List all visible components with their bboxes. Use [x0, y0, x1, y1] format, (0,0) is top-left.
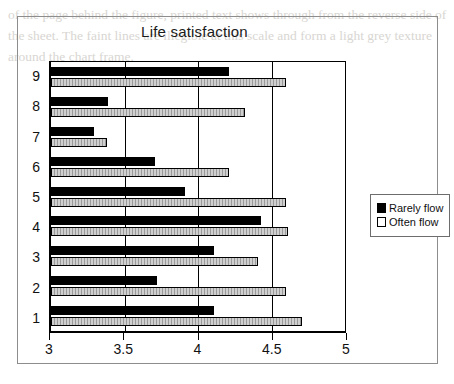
x-tick-mark-4.5 [272, 333, 273, 340]
x-tick-label-3: 3 [45, 341, 53, 357]
y-tick-label-6: 6 [18, 152, 45, 182]
category-group-4 [51, 211, 345, 241]
y-tick-label-5: 5 [18, 182, 45, 212]
category-group-7 [51, 122, 345, 152]
legend-item-often-flow: Often flow [377, 216, 443, 228]
category-group-9 [51, 62, 345, 92]
x-tick-mark-4 [198, 333, 199, 340]
legend-item-rarely-flow: Rarely flow [377, 202, 443, 214]
bar-often-flow-3 [51, 257, 258, 266]
x-axis-tick-marks [49, 333, 346, 341]
y-tick-label-8: 8 [18, 91, 45, 121]
x-tick-label-3.5: 3.5 [114, 341, 133, 357]
bar-rarely-flow-6 [51, 157, 155, 166]
bar-often-flow-8 [51, 108, 245, 117]
category-group-3 [51, 241, 345, 271]
y-tick-label-3: 3 [18, 242, 45, 272]
legend-label: Rarely flow [389, 202, 443, 214]
x-tick-mark-5 [346, 333, 347, 340]
bar-often-flow-5 [51, 198, 286, 207]
bar-rarely-flow-5 [51, 187, 185, 196]
chart-frame: Life satisfaction 987654321 33.544.55 Ra… [17, 16, 438, 364]
x-axis-tick-labels: 33.544.55 [49, 341, 346, 361]
bar-rarely-flow-2 [51, 276, 157, 285]
x-tick-mark-3.5 [123, 333, 124, 340]
bar-often-flow-7 [51, 138, 107, 147]
chart-title: Life satisfaction [0, 23, 404, 40]
chart-legend: Rarely flowOften flow [370, 194, 450, 237]
bar-often-flow-2 [51, 287, 286, 296]
category-group-6 [51, 152, 345, 182]
y-tick-label-1: 1 [18, 303, 45, 333]
bar-often-flow-1 [51, 317, 302, 326]
bar-rarely-flow-9 [51, 67, 229, 76]
x-tick-mark-3 [49, 333, 50, 340]
y-axis-tick-labels: 987654321 [18, 61, 45, 333]
bar-often-flow-9 [51, 78, 286, 87]
y-tick-label-2: 2 [18, 273, 45, 303]
bar-rarely-flow-7 [51, 127, 94, 136]
plot-area [49, 61, 346, 333]
y-tick-label-4: 4 [18, 212, 45, 242]
category-group-1 [51, 301, 345, 331]
bar-rarely-flow-4 [51, 216, 261, 225]
bar-rarely-flow-8 [51, 97, 108, 106]
category-group-8 [51, 92, 345, 122]
bar-rarely-flow-1 [51, 306, 214, 315]
legend-swatch-often-flow-icon [377, 217, 386, 227]
category-group-5 [51, 182, 345, 212]
y-tick-label-9: 9 [18, 61, 45, 91]
y-tick-label-7: 7 [18, 121, 45, 151]
legend-label: Often flow [389, 216, 439, 228]
legend-swatch-rarely-flow-icon [377, 203, 386, 213]
bar-often-flow-6 [51, 168, 229, 177]
bar-rarely-flow-3 [51, 246, 214, 255]
x-tick-label-4: 4 [194, 341, 202, 357]
x-tick-label-5: 5 [342, 341, 350, 357]
bar-rows [51, 62, 345, 331]
bar-often-flow-4 [51, 227, 288, 236]
category-group-2 [51, 271, 345, 301]
x-tick-label-4.5: 4.5 [262, 341, 281, 357]
